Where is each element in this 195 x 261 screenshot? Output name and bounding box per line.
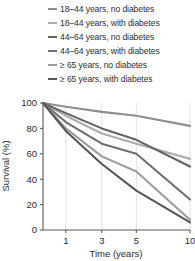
series-line [43,103,190,200]
legend-swatch-icon [48,64,57,67]
legend-swatch-icon [48,36,57,39]
y-axis-title: Survival (%) [0,140,11,191]
legend-swatch-icon [48,78,57,81]
plot-svg: 02040608010013510 Time (years) Survival … [0,95,195,261]
legend-item-label: 18–44 years, no diabetes [60,4,154,14]
legend-item-label: ≥ 65 years, no diabetes [60,60,147,70]
legend-item: ≥ 65 years, with diabetes [48,72,195,86]
y-tick-label: 80 [26,123,37,134]
legend-item-label: 44–64 years, no diabetes [60,32,154,42]
chart-legend: 18–44 years, no diabetes 18–44 years, wi… [48,2,195,86]
survival-chart-figure: 18–44 years, no diabetes 18–44 years, wi… [0,0,195,261]
legend-item-label: 18–44 years, with diabetes [60,18,160,28]
legend-swatch-icon [48,8,57,11]
legend-item: 18–44 years, with diabetes [48,16,195,30]
legend-item: 18–44 years, no diabetes [48,2,195,16]
x-tick-label: 3 [99,235,104,246]
legend-item: 44–64 years, no diabetes [48,30,195,44]
y-tick-label: 20 [26,199,37,210]
legend-item-label: 44–64 years, with diabetes [60,46,160,56]
plot-area: 02040608010013510 Time (years) Survival … [0,95,195,261]
x-tick-label: 1 [63,235,68,246]
y-tick-label: 100 [21,97,37,108]
legend-item-label: ≥ 65 years, with diabetes [60,74,153,84]
y-tick-label: 0 [32,224,37,235]
x-tick-label: 5 [134,235,139,246]
x-axis-title: Time (years) [90,248,143,259]
legend-swatch-icon [48,22,57,25]
y-tick-label: 40 [26,174,37,185]
x-tick-label: 10 [185,235,195,246]
legend-swatch-icon [48,50,57,53]
series-curves [43,103,190,222]
y-tick-label: 60 [26,148,37,159]
legend-item: 44–64 years, with diabetes [48,44,195,58]
legend-item: ≥ 65 years, no diabetes [48,58,195,72]
axis-ticks: 02040608010013510 [21,97,195,246]
